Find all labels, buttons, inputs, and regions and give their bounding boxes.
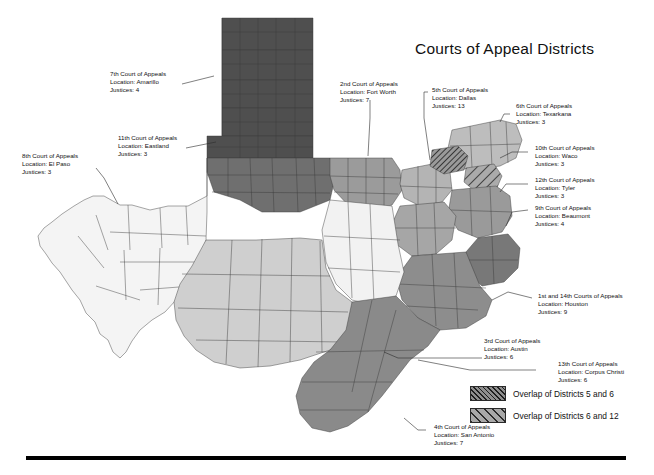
overlap-6-12-swatch-icon (470, 408, 506, 423)
page-title: Courts of Appeal Districts (415, 40, 594, 58)
callout-court-name: 5th Court of Appeals (432, 86, 488, 94)
callout-court-name: 8th Court of Appeals (22, 152, 78, 160)
callout-court-name: 10th Court of Appeals (535, 144, 595, 152)
callout-justices: Justices: 7 (340, 96, 398, 104)
callout-justices: Justices: 4 (535, 220, 591, 228)
callout-location: Location: Texarkana (516, 110, 572, 118)
callout-justices: Justices: 9 (538, 308, 623, 316)
legend-label: Overlap of Districts 6 and 12 (513, 411, 619, 421)
callout-district-7: 7th Court of Appeals Location: Amarillo … (110, 70, 166, 95)
bottom-divider (26, 456, 626, 460)
legend-item-overlap-5-6: Overlap of Districts 5 and 6 (470, 386, 619, 401)
callout-district-12: 12th Court of Appeals Location: Tyler Ju… (535, 176, 595, 201)
callout-location: Location: Tyler (535, 184, 595, 192)
callout-justices: Justices: 3 (516, 118, 572, 126)
callout-location: Location: Corpus Christi (558, 368, 624, 376)
callout-justices: Justices: 3 (535, 160, 595, 168)
callout-justices: Justices: 7 (434, 439, 494, 447)
callout-court-name: 3rd Court of Appeals (484, 337, 540, 345)
callout-district-13: 13th Court of Appeals Location: Corpus C… (558, 360, 624, 385)
callout-district-11: 11th Court of Appeals Location: Eastland… (118, 134, 177, 159)
callout-district-8: 8th Court of Appeals Location: El Paso J… (22, 152, 78, 177)
callout-location: Location: Beaumont (535, 212, 591, 220)
callout-location: Location: Houston (538, 300, 623, 308)
callout-justices: Justices: 3 (22, 168, 78, 176)
callout-court-name: 13th Court of Appeals (558, 360, 624, 368)
callout-district-3: 3rd Court of Appeals Location: Austin Ju… (484, 337, 540, 362)
callout-court-name: 1st and 14th Courts of Appeals (538, 292, 623, 300)
callout-justices: Justices: 3 (535, 192, 595, 200)
callout-location: Location: Eastland (118, 142, 177, 150)
callout-justices: Justices: 4 (110, 86, 166, 94)
callout-location: Location: Dallas (432, 94, 488, 102)
callout-court-name: 6th Court of Appeals (516, 102, 572, 110)
callout-justices: Justices: 6 (558, 376, 624, 384)
callout-district-6: 6th Court of Appeals Location: Texarkana… (516, 102, 572, 127)
callout-justices: Justices: 6 (484, 353, 540, 361)
district-11-eastland (207, 158, 335, 212)
callout-location: Location: El Paso (22, 160, 78, 168)
district-10-waco (392, 202, 456, 256)
callout-district-1-and-14: 1st and 14th Courts of Appeals Location:… (538, 292, 623, 317)
callout-location: Location: Austin (484, 345, 540, 353)
map-legend: Overlap of Districts 5 and 6 Overlap of … (470, 386, 619, 430)
callout-district-5: 5th Court of Appeals Location: Dallas Ju… (432, 86, 488, 111)
map-canvas: Courts of Appeal Districts 7th Court of … (0, 0, 654, 475)
callout-justices: Justices: 3 (118, 150, 177, 158)
callout-justices: Justices: 13 (432, 102, 488, 110)
callout-district-10: 10th Court of Appeals Location: Waco Jus… (535, 144, 595, 169)
callout-district-9: 9th Court of Appeals Location: Beaumont … (535, 204, 591, 229)
district-7-amarillo (207, 18, 313, 158)
callout-court-name: 9th Court of Appeals (535, 204, 591, 212)
callout-court-name: 11th Court of Appeals (118, 134, 177, 142)
callout-court-name: 12th Court of Appeals (535, 176, 595, 184)
callout-location: Location: Amarillo (110, 78, 166, 86)
callout-court-name: 7th Court of Appeals (110, 70, 166, 78)
legend-item-overlap-6-12: Overlap of Districts 6 and 12 (470, 408, 619, 423)
overlap-5-6-swatch-icon (470, 386, 506, 401)
district-12-tyler (448, 186, 512, 238)
legend-label: Overlap of Districts 5 and 6 (513, 389, 614, 399)
callout-district-2: 2nd Court of Appeals Location: Fort Wort… (340, 80, 398, 105)
callout-location: Location: San Antonio (434, 431, 494, 439)
callout-location: Location: Fort Worth (340, 88, 398, 96)
callout-court-name: 2nd Court of Appeals (340, 80, 398, 88)
callout-location: Location: Waco (535, 152, 595, 160)
